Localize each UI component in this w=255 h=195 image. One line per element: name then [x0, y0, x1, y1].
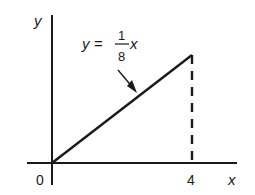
line-chart-figure: y x 0 4 y = 1 8 x	[0, 0, 255, 195]
equation-variable: x	[129, 35, 138, 52]
equation-denominator: 8	[118, 49, 125, 64]
chart-svg: y x 0 4 y = 1 8 x	[0, 0, 255, 195]
origin-label: 0	[36, 172, 44, 188]
equation-lhs: y =	[81, 35, 103, 52]
x-tick-label-4: 4	[187, 172, 195, 188]
equation-numerator: 1	[118, 28, 125, 43]
x-axis-label: x	[227, 171, 236, 188]
equation-annotation: y = 1 8 x	[81, 28, 138, 64]
data-line	[52, 55, 192, 163]
y-axis-label: y	[33, 12, 43, 29]
